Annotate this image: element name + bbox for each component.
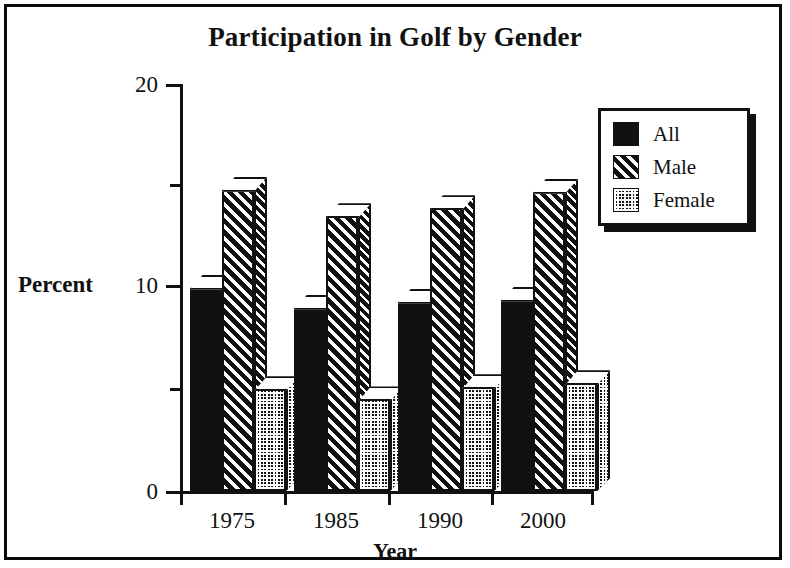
x-axis-label-1990: 1990 [395,508,485,534]
legend-item-male[interactable]: Male [613,152,696,182]
bar-front-face [294,308,326,491]
legend-item-female[interactable]: Female [613,185,715,215]
bar-front-face [533,192,565,491]
y-axis-label-0: 0 [98,479,158,505]
bar-front-face [326,216,358,491]
y-tick-5 [170,388,183,391]
legend-label-male: Male [653,155,696,180]
y-axis-label-10: 10 [98,273,158,299]
y-axis-line [180,84,183,494]
bar-front-face [190,288,222,492]
legend-label-all: All [653,122,680,147]
x-tick-3 [491,491,494,505]
x-axis-label-1975: 1975 [187,508,277,534]
bar-front-face [501,300,533,491]
bar-front-face [565,383,597,491]
x-tick-4 [591,491,594,505]
legend-swatch-all-icon [613,122,639,146]
x-axis-label-1985: 1985 [291,508,381,534]
legend-label-female: Female [653,188,715,213]
legend-item-all[interactable]: All [613,119,680,149]
bar-2000-female [565,370,610,491]
y-tick-10 [166,285,183,288]
x-axis-line [180,491,594,494]
y-axis-label-20: 20 [98,72,158,98]
legend: All Male Female [598,108,750,226]
x-tick-1 [284,491,287,505]
bar-front-face [358,399,390,491]
x-tick-2 [388,491,391,505]
bar-side-face [597,370,610,491]
bar-1985-female [358,386,403,491]
bar-front-face [254,389,286,491]
x-axis-title: Year [0,538,790,564]
y-tick-20 [166,84,183,87]
bar-front-face [430,208,462,491]
bar-front-face [462,387,494,491]
bar-front-face [398,302,430,491]
chart-figure: Participation in Golf by Gender 20 10 0 … [0,0,790,568]
bar-1975-female [254,376,299,491]
x-tick-0 [180,491,183,505]
legend-swatch-female-icon [613,188,639,212]
bar-front-face [222,190,254,491]
y-axis-title: Percent [18,272,93,298]
x-axis-label-2000: 2000 [498,508,588,534]
legend-swatch-male-icon [613,155,639,179]
y-tick-15 [170,184,183,187]
page-title: Participation in Golf by Gender [0,22,790,53]
